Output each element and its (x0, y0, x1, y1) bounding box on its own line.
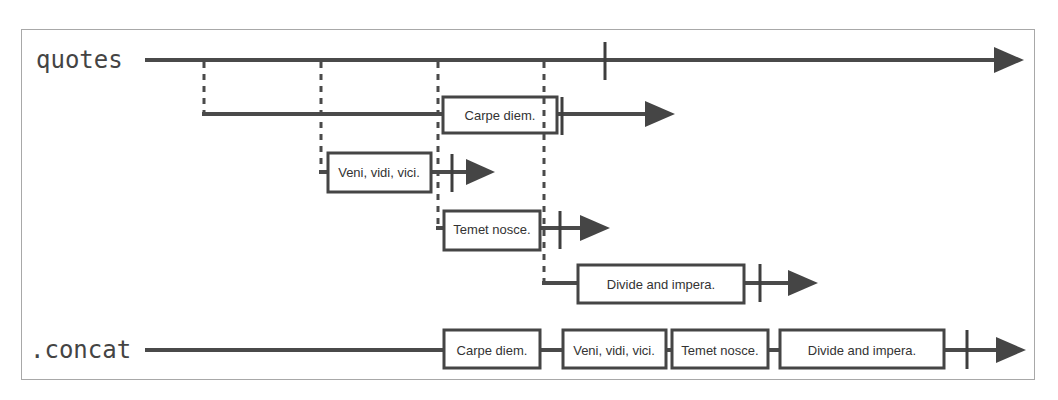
inner-arrow-icon (645, 101, 675, 127)
inner-observable-3: Temet nosce. (436, 62, 610, 250)
result-stream-label: .concat (30, 336, 131, 364)
source-stream-label: quotes (36, 46, 123, 74)
inner-arrow-icon (788, 270, 818, 296)
inner-arrow-icon (580, 215, 610, 241)
marble-label: Veni, vidi, vici. (338, 165, 420, 180)
result-marble-label: Carpe diem. (457, 343, 528, 358)
marble-label: Carpe diem. (465, 108, 536, 123)
source-arrow-icon (994, 47, 1024, 73)
result-arrow-icon (996, 337, 1026, 363)
result-stream: .concat Carpe diem. Veni, vidi, vici. Te… (30, 330, 1026, 369)
inner-observable-4: Divide and impera. (542, 62, 818, 303)
marble-label: Divide and impera. (607, 277, 715, 292)
source-stream: quotes (36, 42, 1024, 80)
inner-arrow-icon (466, 159, 495, 185)
result-marble-label: Temet nosce. (681, 343, 758, 358)
result-marble-label: Divide and impera. (808, 343, 916, 358)
marble-diagram: quotes Carpe diem. Veni, vidi, vici. Tem… (0, 0, 1058, 400)
result-marble-label: Veni, vidi, vici. (573, 343, 655, 358)
marble-label: Temet nosce. (453, 222, 530, 237)
